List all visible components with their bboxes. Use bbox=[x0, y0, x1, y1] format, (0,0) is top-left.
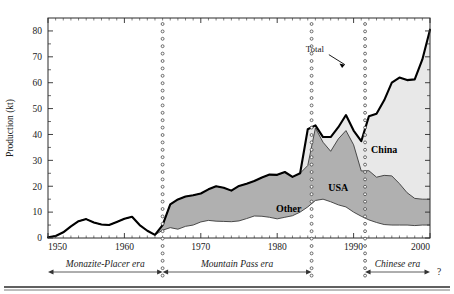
era-divider-dot bbox=[364, 134, 367, 137]
label-china: China bbox=[371, 144, 397, 155]
era-divider-dot bbox=[161, 23, 164, 26]
era-divider-dot bbox=[310, 126, 313, 129]
era-divider-dot bbox=[310, 208, 313, 211]
label-total: Total bbox=[306, 44, 325, 54]
era-divider-dot bbox=[161, 134, 164, 137]
label-usa: USA bbox=[328, 182, 349, 193]
production-area-chart: 0102030405060708019501960197019801990200… bbox=[0, 0, 454, 294]
era-divider-dot bbox=[364, 30, 367, 33]
x-tick-label-1960: 1960 bbox=[115, 242, 134, 252]
era-divider-dot bbox=[364, 222, 367, 225]
era-divider-dot bbox=[161, 97, 164, 100]
y-tick-label-60: 60 bbox=[33, 78, 43, 88]
era-divider-dot bbox=[364, 148, 367, 151]
era-1-arrow-left bbox=[163, 270, 169, 275]
era-divider-dot bbox=[161, 30, 164, 33]
era-divider-dot bbox=[310, 60, 313, 63]
label-other: Other bbox=[276, 203, 302, 214]
y-tick-label-20: 20 bbox=[33, 182, 43, 192]
era-divider-dot bbox=[161, 230, 164, 233]
era-divider-dot bbox=[310, 222, 313, 225]
era-divider-dot bbox=[310, 111, 313, 114]
era-divider-dot bbox=[364, 119, 367, 122]
era-divider-dot bbox=[364, 45, 367, 48]
y-axis-title: Production (kt) bbox=[5, 99, 16, 157]
era-divider-dot bbox=[310, 37, 313, 40]
era-0-arrow-right bbox=[157, 270, 163, 275]
y-tick-label-30: 30 bbox=[33, 156, 43, 166]
era-divider-dot bbox=[161, 74, 164, 77]
era-divider-dot bbox=[310, 141, 313, 144]
era-divider-dot bbox=[310, 178, 313, 181]
era-divider-dot bbox=[161, 245, 164, 248]
x-tick-label-1980: 1980 bbox=[268, 242, 287, 252]
era-divider-dot bbox=[310, 148, 313, 151]
era-2-arrow-left bbox=[365, 270, 371, 275]
era-divider-dot bbox=[310, 200, 313, 203]
era-2-arrow-right bbox=[425, 270, 431, 275]
total-arrow-line bbox=[329, 55, 345, 65]
era-divider-dot bbox=[310, 252, 313, 255]
era-divider-dot bbox=[364, 111, 367, 114]
era-label-0: Monazite-Placer era bbox=[65, 259, 145, 269]
y-tick-label-10: 10 bbox=[33, 207, 43, 217]
era-divider-dot bbox=[364, 208, 367, 211]
x-tick-label-2000: 2000 bbox=[411, 242, 430, 252]
x-tick-label-1970: 1970 bbox=[191, 242, 210, 252]
era-1-arrow-right bbox=[306, 270, 312, 275]
era-divider-dot bbox=[310, 156, 313, 159]
era-divider-dot bbox=[161, 185, 164, 188]
era-divider-dot bbox=[364, 156, 367, 159]
era-divider-dot bbox=[161, 171, 164, 174]
era-divider-dot bbox=[364, 171, 367, 174]
era-divider-dot bbox=[310, 82, 313, 85]
era-divider-dot bbox=[310, 259, 313, 262]
era-divider-dot bbox=[364, 74, 367, 77]
era-divider-dot bbox=[161, 119, 164, 122]
era-divider-dot bbox=[310, 267, 313, 270]
era-divider-dot bbox=[161, 111, 164, 114]
era-divider-dot bbox=[161, 148, 164, 151]
era-divider-dot bbox=[310, 163, 313, 166]
era-divider-dot bbox=[364, 141, 367, 144]
era-divider-dot bbox=[364, 126, 367, 129]
era-divider-dot bbox=[161, 259, 164, 262]
era-divider-dot bbox=[310, 67, 313, 70]
era-divider-dot bbox=[161, 45, 164, 48]
era-divider-dot bbox=[310, 97, 313, 100]
era-divider-dot bbox=[310, 237, 313, 240]
era-divider-dot bbox=[364, 37, 367, 40]
era-divider-dot bbox=[161, 215, 164, 218]
x-tick-label-1990: 1990 bbox=[344, 242, 363, 252]
era-divider-dot bbox=[310, 185, 313, 188]
era-divider-dot bbox=[364, 67, 367, 70]
era-divider-dot bbox=[161, 82, 164, 85]
era-divider-dot bbox=[161, 178, 164, 181]
era-divider-dot bbox=[161, 37, 164, 40]
era-divider-dot bbox=[161, 267, 164, 270]
era-divider-dot bbox=[364, 252, 367, 255]
era-divider-dot bbox=[364, 89, 367, 92]
era-divider-dot bbox=[161, 274, 164, 277]
era-0-arrow-left bbox=[48, 270, 54, 275]
era-divider-dot bbox=[310, 134, 313, 137]
era-divider-dot bbox=[161, 67, 164, 70]
era-divider-dot bbox=[364, 82, 367, 85]
era-divider-dot bbox=[310, 230, 313, 233]
era-divider-dot bbox=[364, 237, 367, 240]
era-divider-dot bbox=[364, 104, 367, 107]
figure-root: 0102030405060708019501960197019801990200… bbox=[0, 0, 454, 294]
era-divider-dot bbox=[364, 97, 367, 100]
x-tick-label-1950: 1950 bbox=[48, 242, 67, 252]
era-divider-dot bbox=[161, 222, 164, 225]
era-divider-dot bbox=[364, 23, 367, 26]
era-divider-dot bbox=[364, 60, 367, 63]
era-divider-dot bbox=[364, 193, 367, 196]
era-divider-dot bbox=[310, 245, 313, 248]
era-divider-dot bbox=[364, 185, 367, 188]
era-divider-dot bbox=[364, 178, 367, 181]
era-divider-dot bbox=[161, 141, 164, 144]
era-divider-dot bbox=[310, 30, 313, 33]
era-divider-dot bbox=[161, 193, 164, 196]
era-divider-dot bbox=[310, 215, 313, 218]
